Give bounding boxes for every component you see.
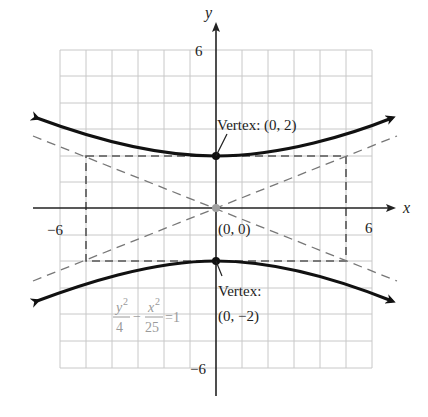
- eq-num1: y: [114, 300, 123, 315]
- x-tick-neg6: −6: [47, 222, 63, 238]
- x-tick-6: 6: [365, 220, 373, 236]
- y-tick-6: 6: [195, 43, 203, 59]
- vertex-bottom-label-line1: Vertex:: [218, 283, 261, 299]
- center-point: [212, 204, 220, 212]
- eq-exp1: 2: [123, 296, 128, 307]
- eq-den2: 25: [145, 320, 159, 335]
- center-label: (0, 0): [218, 221, 251, 238]
- eq-rhs: =1: [165, 310, 180, 325]
- y-tick-neg6: −6: [190, 361, 206, 377]
- vertex-bottom-label-line2: (0, −2): [218, 308, 259, 325]
- upper-branch: [37, 118, 392, 156]
- vertex-top-label: Vertex: (0, 2): [217, 117, 297, 134]
- hyperbola-figure: y x 6 −6 −6 6 Vertex: (0, 2) (0, 0) Vert…: [0, 0, 428, 417]
- eq-num2: x: [147, 300, 155, 315]
- eq-exp2: 2: [155, 296, 160, 307]
- y-axis-label: y: [203, 4, 213, 22]
- lower-branch: [37, 261, 392, 301]
- x-axis-label: x: [402, 199, 410, 216]
- eq-minus: −: [133, 309, 141, 324]
- eq-den1: 4: [116, 320, 123, 335]
- vertex-top-leader: [216, 134, 227, 156]
- equation: y 2 4 − x 2 25 =1: [113, 296, 180, 335]
